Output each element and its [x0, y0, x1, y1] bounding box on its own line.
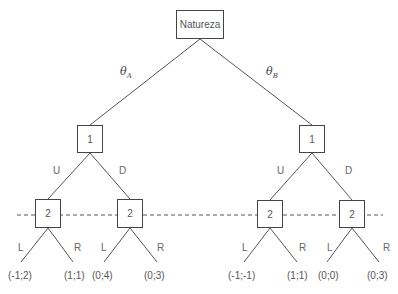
theta-b-label: θB — [266, 66, 278, 82]
edge-p2b-l — [104, 228, 130, 262]
action-r-3: R — [299, 242, 306, 254]
action-l-3: L — [242, 242, 248, 254]
edge-p2a-r — [48, 228, 73, 262]
nature-label: Natureza — [180, 19, 221, 30]
edge-p2d-r — [352, 228, 379, 262]
player2-node-2: 2 — [117, 199, 143, 228]
action-u-left: U — [53, 165, 60, 177]
action-u-right: U — [277, 165, 284, 177]
nature-node: Natureza — [176, 10, 224, 39]
edge-theta-b — [200, 39, 312, 125]
player1-node-right: 1 — [299, 125, 325, 153]
payoff-1-l: (-1;2) — [8, 270, 32, 282]
payoff-2-r: (0;3) — [144, 270, 165, 282]
payoff-2-l: (0;4) — [92, 270, 113, 282]
action-d-right: D — [345, 165, 352, 177]
action-l-1: L — [18, 242, 24, 254]
payoff-1-r: (1;1) — [64, 270, 85, 282]
payoff-3-r: (1;1) — [287, 270, 308, 282]
edge-p2c-r — [270, 228, 297, 262]
payoff-4-r: (0;3) — [367, 270, 388, 282]
action-r-4: R — [383, 242, 390, 254]
theta-a-label: θA — [120, 66, 132, 82]
action-l-2: L — [101, 242, 107, 254]
edge-theta-a — [90, 39, 200, 125]
edge-p2a-l — [21, 228, 48, 262]
action-r-2: R — [157, 242, 164, 254]
payoff-4-l: (0;0) — [318, 270, 339, 282]
player2-node-4: 2 — [339, 200, 365, 228]
player1-node-left: 1 — [77, 125, 103, 153]
payoff-3-l: (-1;-1) — [228, 270, 255, 282]
action-d-left: D — [119, 165, 126, 177]
player2-node-1: 2 — [35, 199, 61, 228]
action-l-4: L — [327, 242, 333, 254]
tree-edges — [0, 0, 398, 294]
game-tree-diagram: Natureza θA θB 1 1 U D U D 2 2 2 2 L R L… — [0, 0, 398, 294]
player2-node-3: 2 — [257, 200, 283, 228]
edge-p2b-r — [130, 228, 157, 262]
action-r-1: R — [74, 242, 81, 254]
